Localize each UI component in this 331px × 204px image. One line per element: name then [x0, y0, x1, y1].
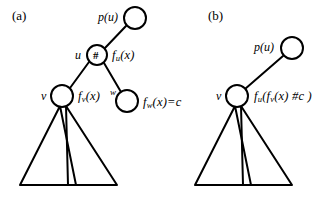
node-glyph-hash-u-a: #	[93, 49, 99, 61]
edge-v-to-parent-b	[245, 56, 283, 89]
fw-tail: (x)=c	[153, 95, 182, 109]
function-label-fu-a: fu(x)	[112, 48, 135, 63]
fu-tail: (x)	[120, 48, 134, 62]
node-v-a	[51, 85, 73, 107]
function-label-fw-a: fw(x)=c	[143, 95, 181, 110]
panel-label-b: (b)	[208, 8, 223, 24]
node-label-w-a: w	[110, 87, 116, 97]
node-w-a	[116, 90, 138, 112]
fv-tail: (x)	[86, 89, 100, 103]
figure-tree-contraction-diagram: (a) (b) p(u) u # v w fu(x) fv(x) fw(x)=c…	[0, 0, 331, 204]
edge-u-to-parent-a	[105, 26, 126, 48]
node-label-parent-of-u-b: p(u)	[254, 40, 274, 55]
node-label-v-b: v	[216, 89, 221, 104]
function-label-fu-fv-b: fu(fv(x) #c )	[254, 89, 312, 104]
panel-b-graphics	[195, 37, 303, 185]
panel-label-a: (a)	[12, 8, 26, 24]
node-parent-of-u-b	[281, 37, 303, 59]
function-label-fv-a: fv(x)	[78, 89, 100, 104]
fuv-mid: (f	[262, 89, 270, 103]
fuv-tail: (x) #c )	[274, 89, 312, 103]
node-label-parent-of-u-a: p(u)	[98, 10, 118, 25]
node-parent-of-u-a	[124, 7, 146, 29]
node-label-v-a: v	[41, 89, 46, 104]
node-label-u-a: u	[75, 48, 81, 63]
node-v-b	[226, 85, 248, 107]
edge-u-to-v-a	[70, 62, 89, 88]
